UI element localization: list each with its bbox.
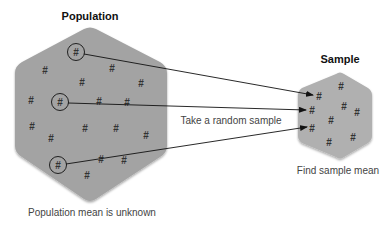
population-member: #: [79, 77, 85, 88]
population-title: Population: [62, 10, 119, 22]
population-member: #: [113, 123, 119, 134]
population-member: #: [96, 96, 102, 107]
population-member: #: [82, 123, 88, 134]
population-member: #: [73, 47, 79, 58]
sample-member: #: [326, 137, 332, 148]
sample-member: #: [341, 101, 347, 112]
population-member: #: [84, 170, 90, 181]
population-member: #: [29, 121, 35, 132]
population-member: #: [48, 133, 54, 144]
population-caption: Population mean is unknown: [28, 207, 156, 218]
sample-member: #: [354, 107, 360, 118]
sample-member: #: [350, 132, 356, 143]
arrow-label: Take a random sample: [180, 115, 282, 126]
population-member: #: [98, 154, 104, 165]
sample-member: #: [328, 115, 334, 126]
sample-caption: Find sample mean: [297, 165, 379, 176]
population-member: #: [42, 65, 48, 76]
population-member: #: [57, 97, 63, 108]
population-member: #: [55, 160, 61, 171]
population-member: #: [28, 95, 34, 106]
sample-title: Sample: [320, 53, 359, 65]
population-member: #: [143, 130, 149, 141]
population-hexagon: [15, 28, 167, 202]
population-member: #: [109, 63, 115, 74]
sampling-diagram: Population Sample Population mean is unk…: [0, 0, 389, 229]
sample-member: #: [309, 123, 315, 134]
sample-member: #: [316, 91, 322, 102]
sample-member: #: [309, 105, 315, 116]
population-member: #: [124, 97, 130, 108]
population-member: #: [138, 78, 144, 89]
sample-member: #: [338, 81, 344, 92]
population-member: #: [121, 155, 127, 166]
